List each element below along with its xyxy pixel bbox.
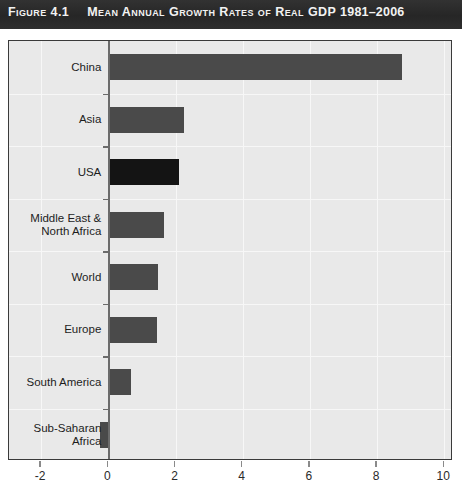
- category-label-europe: Europe: [9, 323, 101, 336]
- gridline-h-7: [9, 409, 451, 410]
- gridline-h-2: [9, 146, 451, 147]
- gridline-v-6: [310, 41, 311, 459]
- category-tick-2: [103, 146, 108, 148]
- value-label-8: 8: [373, 469, 380, 483]
- category-label-south-america: South America: [9, 376, 101, 389]
- plot-frame: ChinaAsiaUSAMiddle East & North AfricaWo…: [8, 40, 452, 460]
- figure-title: Figure 4.1 Mean Annual Growth Rates of R…: [8, 5, 404, 19]
- bar-middle-east-north-africa: [108, 212, 163, 238]
- category-tick-6: [103, 356, 108, 358]
- category-tick-3: [103, 199, 108, 201]
- bar-china: [108, 54, 402, 80]
- gridline-h-4: [9, 251, 451, 252]
- value-label--2: -2: [35, 469, 46, 483]
- chart-container: ChinaAsiaUSAMiddle East & North AfricaWo…: [0, 29, 462, 485]
- gridline-v-2: [176, 41, 177, 459]
- bar-usa: [108, 159, 179, 185]
- value-tick--2: [39, 461, 41, 467]
- figure-number: 4.1: [50, 5, 69, 19]
- category-label-world: World: [9, 271, 101, 284]
- gridline-h-5: [9, 304, 451, 305]
- bar-europe: [108, 317, 157, 343]
- value-label-0: 0: [104, 469, 111, 483]
- category-tick-5: [103, 304, 108, 306]
- value-label-4: 4: [238, 469, 245, 483]
- gridline-h-3: [9, 199, 451, 200]
- value-tick-2: [174, 461, 176, 467]
- figure-title-band: Figure 4.1 Mean Annual Growth Rates of R…: [0, 0, 462, 29]
- value-label-10: 10: [437, 469, 450, 483]
- value-tick-10: [443, 461, 445, 467]
- figure-label: Figure: [8, 5, 47, 19]
- value-tick-4: [241, 461, 243, 467]
- figure-title-years: 1981–2006: [340, 5, 404, 19]
- value-label-2: 2: [171, 469, 178, 483]
- value-tick-0: [107, 461, 109, 467]
- category-label-china: China: [9, 61, 101, 74]
- category-label-sub-saharan-africa: Sub-Saharan Africa: [9, 422, 101, 448]
- gridline-h-6: [9, 356, 451, 357]
- gridline-v--2: [41, 41, 42, 459]
- gridline-v-8: [377, 41, 378, 459]
- category-label-middle-east-north-africa: Middle East & North Africa: [9, 212, 101, 238]
- category-label-usa: USA: [9, 166, 101, 179]
- category-tick-4: [103, 251, 108, 253]
- figure-title-text: Mean Annual Growth Rates of Real GDP: [87, 5, 336, 19]
- gridline-h-1: [9, 94, 451, 95]
- value-tick-6: [308, 461, 310, 467]
- category-label-asia: Asia: [9, 113, 101, 126]
- value-tick-8: [375, 461, 377, 467]
- value-label-6: 6: [306, 469, 313, 483]
- gridline-v-10: [444, 41, 445, 459]
- bar-asia: [108, 107, 184, 133]
- category-axis: [108, 41, 110, 459]
- gridline-v-4: [243, 41, 244, 459]
- category-tick-7: [103, 409, 108, 411]
- plot-area: ChinaAsiaUSAMiddle East & North AfricaWo…: [9, 41, 451, 459]
- bar-south-america: [108, 369, 131, 395]
- bar-world: [108, 264, 158, 290]
- category-tick-1: [103, 94, 108, 96]
